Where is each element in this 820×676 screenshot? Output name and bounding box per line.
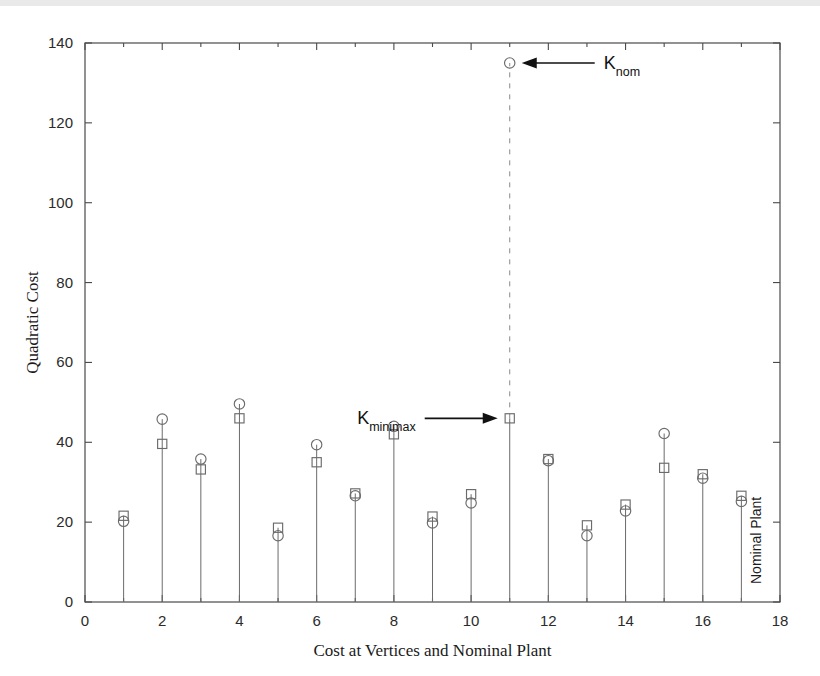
x-tick-label: 0 [81,612,89,629]
figure-container: 024681012141618020406080100120140Cost at… [0,0,820,676]
y-axis-title: Quadratic Cost [23,271,42,374]
quadratic-cost-stem-plot: 024681012141618020406080100120140Cost at… [0,0,820,676]
y-tick-label: 140 [48,34,73,51]
x-tick-label: 4 [235,612,243,629]
annotations-group: KnomKminimaxNominal Plant [357,53,764,584]
knom-label-base: K [604,53,616,73]
top-edge-strip [0,0,820,6]
x-tick-label: 16 [694,612,711,629]
knom-label: Knom [604,53,640,79]
x-tick-label: 8 [390,612,398,629]
knom-arrow-head [522,57,537,68]
y-tick-label: 120 [48,114,73,131]
x-tick-label: 2 [158,612,166,629]
markers-group [118,58,746,541]
x-tick-label: 12 [540,612,557,629]
x-tick-label: 18 [772,612,789,629]
nominal-plant-label: Nominal Plant [748,497,764,584]
x-tick-label: 14 [617,612,634,629]
x-axis-title: Cost at Vertices and Nominal Plant [313,641,551,660]
y-tick-label: 80 [56,274,73,291]
y-tick-label: 60 [56,353,73,370]
axes-group: 024681012141618020406080100120140Cost at… [23,34,788,660]
x-tick-label: 6 [312,612,320,629]
y-tick-label: 0 [65,593,73,610]
x-tick-label: 10 [463,612,480,629]
kminimax-label-base: K [357,408,369,428]
kminimax-label: Kminimax [357,408,416,434]
kminimax-arrow-head [483,413,498,424]
data-point-circle [505,58,515,68]
y-tick-label: 40 [56,433,73,450]
knom-label-subscript: nom [616,65,640,79]
y-tick-label: 100 [48,194,73,211]
y-tick-label: 20 [56,513,73,530]
kminimax-label-subscript: minimax [369,420,416,434]
